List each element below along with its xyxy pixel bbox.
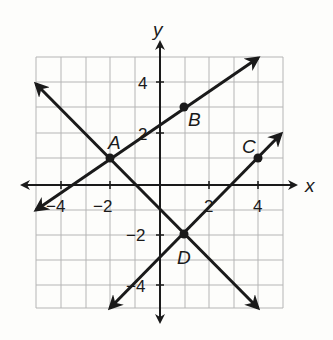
- point-d-label: D: [177, 247, 191, 268]
- point-d: [180, 230, 189, 239]
- line-ad: [36, 84, 258, 308]
- y-tick-label: −2: [126, 226, 145, 245]
- x-tick-label: 4: [253, 197, 262, 216]
- point-b-label: B: [188, 109, 201, 130]
- point-a-label: A: [107, 132, 121, 153]
- coordinate-plane: y x −4 −2 2 4 4 2 −2 −4 A B C D: [0, 0, 333, 340]
- point-a: [106, 154, 115, 163]
- y-axis-label: y: [151, 19, 164, 40]
- x-tick-label: −2: [93, 197, 112, 216]
- point-c-label: C: [242, 136, 256, 157]
- axes: [22, 42, 296, 322]
- y-tick-label: 4: [138, 74, 147, 93]
- x-axis-label: x: [304, 175, 316, 196]
